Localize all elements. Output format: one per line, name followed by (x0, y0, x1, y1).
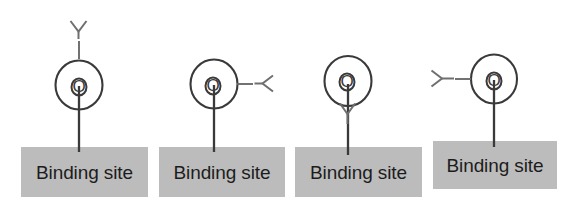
unit-4-ligand-y-icon (432, 71, 455, 87)
diagram-canvas: Binding site O Binding site O (0, 0, 582, 209)
unit-2-ligand-y-icon (255, 76, 274, 92)
binding-site-diagram: Binding site O Binding site O (0, 0, 582, 209)
unit-1-group: Binding site O (21, 21, 148, 197)
unit-3-group: Binding site O (295, 56, 422, 197)
unit-2-group: Binding site O (159, 60, 285, 198)
unit-1-ligand-y-icon (71, 21, 87, 39)
unit-3-binding-site-label: Binding site (310, 162, 407, 183)
unit-4-binding-site-label: Binding site (446, 155, 543, 176)
unit-4-group: Binding site O (432, 55, 558, 190)
unit-2-binding-site-label: Binding site (173, 162, 270, 183)
unit-1-binding-site-label: Binding site (36, 162, 133, 183)
